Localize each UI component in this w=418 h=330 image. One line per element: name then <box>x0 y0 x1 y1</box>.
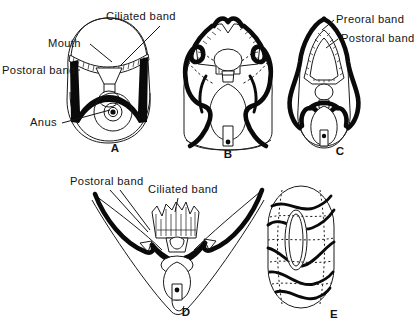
mouth-funnel-b <box>210 49 247 146</box>
panel-d: Postoral band Ciliated band D <box>70 175 264 318</box>
label-postoral-band-d: Postoral band <box>70 175 144 187</box>
label-preoral-band-c: Preoral band <box>336 13 404 25</box>
panel-letter-d: D <box>182 306 191 318</box>
stomach-d <box>161 256 193 300</box>
panel-letter-c: C <box>336 145 345 157</box>
panel-a: Ciliated band Mouth Postoral band Anus A <box>2 10 176 154</box>
larval-diagram-figure: Ciliated band Mouth Postoral band Anus A <box>0 0 418 330</box>
panel-letter-e: E <box>330 308 338 320</box>
panel-letter-b: B <box>224 148 233 160</box>
label-anus-a: Anus <box>30 116 57 128</box>
label-postoral-band-a: Postoral band <box>2 64 76 76</box>
panel-letter-a: A <box>111 142 120 154</box>
label-ciliated-band-a: Ciliated band <box>106 10 176 22</box>
panel-e: E <box>268 186 338 320</box>
label-mouth-a: Mouth <box>48 37 81 49</box>
label-postoral-band-c: Postoral band <box>341 32 415 44</box>
postoral-band-c <box>304 30 344 84</box>
panel-b: B <box>184 19 272 160</box>
label-ciliated-band-d: Ciliated band <box>148 183 218 195</box>
panel-c: Preoral band Postoral band C <box>290 13 415 157</box>
